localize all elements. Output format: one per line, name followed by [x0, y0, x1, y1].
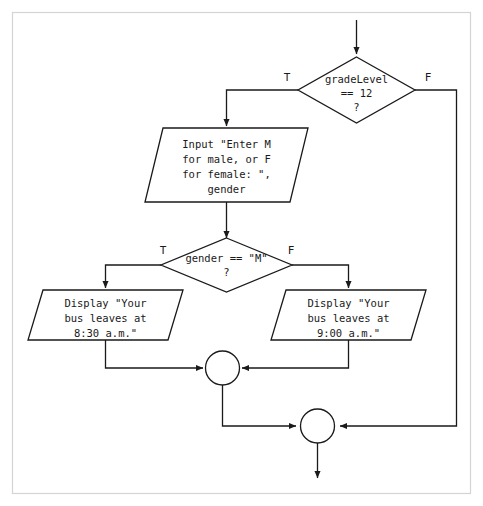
merge-connector-inner	[206, 351, 240, 385]
display-900-line-1: Display "Your	[307, 297, 389, 309]
display-830-line-1: Display "Your	[64, 297, 146, 309]
decision-grade-level-line-2: == 12	[341, 87, 373, 99]
display-830-line-2: bus leaves at	[64, 312, 146, 324]
input-gender-line-4: gender	[208, 183, 246, 195]
flowchart-canvas: gradeLevel == 12 ? T F Input "Enter M fo…	[0, 0, 483, 506]
input-gender-line-3: for female: ",	[182, 168, 271, 180]
decision-grade-level-line-3: ?	[353, 101, 359, 113]
branch-label-gradelevel-true: T	[284, 71, 291, 84]
edge-gender-false-to-display900	[292, 265, 349, 288]
display-830-line-3: 8:30 a.m."	[74, 327, 137, 339]
branch-label-gender-true: T	[160, 244, 167, 257]
edge-gradelevel-false-to-outer-connector	[340, 90, 457, 426]
display-900-line-3: 9:00 a.m."	[317, 327, 380, 339]
input-gender-line-1: Input "Enter M	[182, 138, 271, 150]
flowchart-svg: gradeLevel == 12 ? T F Input "Enter M fo…	[0, 0, 483, 506]
branch-label-gender-false: F	[288, 244, 295, 257]
decision-gender-line-2: ?	[223, 266, 229, 278]
edge-gender-true-to-display830	[106, 265, 162, 288]
merge-connector-outer	[301, 409, 335, 443]
edge-display830-to-inner-connector	[106, 340, 204, 368]
input-gender-line-2: for male, or F	[182, 153, 271, 165]
branch-label-gradelevel-false: F	[425, 71, 432, 84]
edge-inner-to-outer-connector	[223, 385, 297, 426]
decision-gender	[161, 238, 292, 292]
decision-gender-line-1: gender == "M"	[185, 252, 267, 264]
display-900-line-2: bus leaves at	[307, 312, 389, 324]
decision-grade-level-line-1: gradeLevel	[325, 73, 388, 85]
edge-display900-to-inner-connector	[242, 340, 349, 368]
edge-gradelevel-true-to-input	[227, 90, 299, 126]
